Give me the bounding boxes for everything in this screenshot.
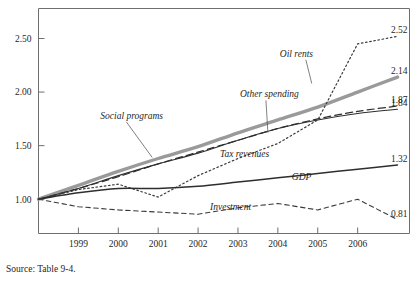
- end-value-label: 1.84: [391, 98, 408, 108]
- y-tick-label: 2.00: [15, 87, 32, 97]
- y-axis-tick-labels: 1.001.502.002.50: [15, 34, 32, 205]
- x-tick-label: 2006: [348, 239, 367, 249]
- x-tick-label: 2000: [109, 239, 128, 249]
- y-tick-label: 1.00: [15, 195, 32, 205]
- x-tick-label: 2002: [189, 239, 208, 249]
- series-line-oil-rents: [39, 36, 398, 199]
- label-leader-lines: [126, 60, 311, 158]
- figure-container: 1.001.502.002.50 19992000200120022003200…: [0, 0, 420, 281]
- series-end-value-labels: 2.522.141.871.841.320.81: [391, 25, 408, 218]
- x-tick-label: 2001: [149, 239, 168, 249]
- y-tick-label: 1.50: [15, 141, 32, 151]
- series-label-tax-revenues: Tax revenues: [220, 149, 269, 159]
- axes: [39, 9, 410, 234]
- series-label-social-programs: Social programs: [100, 111, 163, 121]
- end-value-label: 2.14: [391, 66, 408, 76]
- series-line-social-programs: [39, 77, 398, 199]
- x-tick-label: 2005: [308, 239, 327, 249]
- series-line-other-spending: [39, 106, 398, 199]
- leader-line-social-programs: [126, 122, 152, 158]
- end-value-label: 1.32: [391, 154, 408, 164]
- leader-line-oil-rents: [306, 60, 312, 84]
- y-tick-label: 2.50: [15, 34, 32, 44]
- x-tick-label: 2004: [268, 239, 287, 249]
- series-label-other-spending: Other spending: [240, 89, 299, 99]
- leader-line-other-spending: [266, 100, 268, 132]
- series-line-tax-revenues: [39, 109, 398, 199]
- series-label-investment: Investment: [209, 202, 252, 212]
- x-axis-tick-labels: 19992000200120022003200420052006: [69, 239, 367, 249]
- source-note: Source: Table 9-4.: [6, 264, 76, 274]
- line-chart: 1.001.502.002.50 19992000200120022003200…: [0, 0, 420, 281]
- end-value-label: 0.81: [391, 209, 408, 219]
- x-tick-label: 2003: [228, 239, 247, 249]
- series-label-gdp: GDP: [292, 172, 312, 182]
- series-label-oil-rents: Oil rents: [280, 49, 313, 59]
- x-tick-label: 1999: [69, 239, 88, 249]
- end-value-label: 2.52: [391, 25, 408, 35]
- series-curves: [39, 36, 398, 219]
